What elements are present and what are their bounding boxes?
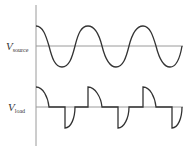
load-waveform bbox=[36, 87, 182, 128]
v-source-label: Vsource bbox=[6, 41, 28, 53]
v-load-main: V bbox=[8, 101, 15, 113]
v-load-sub: load bbox=[15, 108, 25, 114]
v-source-sub: source bbox=[13, 47, 29, 53]
v-source-main: V bbox=[6, 40, 13, 52]
waveform-diagram bbox=[0, 0, 186, 151]
v-load-label: Vload bbox=[8, 102, 25, 114]
